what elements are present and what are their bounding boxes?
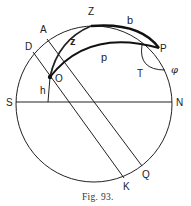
label-h: h: [40, 85, 46, 96]
label-t: T: [137, 68, 143, 79]
label-a: A: [40, 24, 47, 35]
label-p-point: P: [160, 43, 167, 54]
sphere-circle: [16, 26, 172, 182]
label-z-arc: z: [70, 35, 76, 47]
line-d-k: [33, 52, 124, 178]
label-p-arc: p: [101, 51, 107, 63]
label-z-point: Z: [88, 6, 94, 17]
label-s: S: [6, 97, 13, 108]
label-o: O: [55, 73, 63, 84]
label-n: N: [176, 97, 183, 108]
label-b: b: [127, 14, 133, 26]
label-phi: φ: [171, 64, 178, 75]
label-k: K: [123, 181, 130, 192]
label-q: Q: [142, 169, 150, 180]
label-d: D: [25, 41, 32, 52]
altitude-line-h: [48, 77, 50, 102]
celestial-sphere-diagram: Z b A D z P p O T φ h S N Q K Fig. 93.: [0, 0, 191, 206]
figure-caption: Fig. 93.: [82, 192, 114, 202]
point-o: [48, 75, 52, 79]
